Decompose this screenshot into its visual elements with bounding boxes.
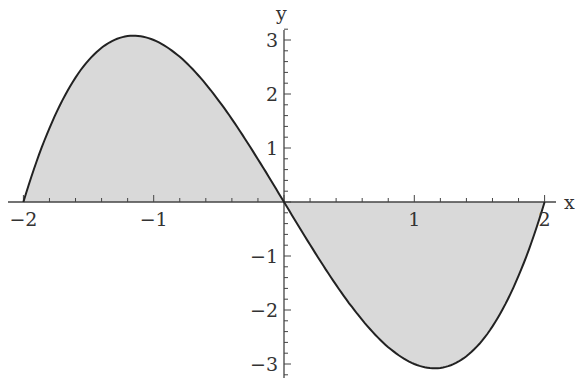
y-tick-label: −1 xyxy=(250,245,278,267)
y-tick-label: −2 xyxy=(250,299,278,321)
x-tick-label: 1 xyxy=(408,208,420,230)
y-axis-label: y xyxy=(275,2,287,24)
x-tick-label: 2 xyxy=(539,208,551,230)
x-tick-label: −1 xyxy=(140,208,168,230)
chart: −2−112−3−2−1123 x y xyxy=(0,0,582,388)
x-axis-label: x xyxy=(564,191,575,213)
x-tick-label: −2 xyxy=(9,208,37,230)
y-tick-label: 2 xyxy=(266,83,278,105)
y-tick-label: −3 xyxy=(250,353,278,375)
y-tick-label: 1 xyxy=(266,137,278,159)
y-tick-label: 3 xyxy=(266,29,278,51)
